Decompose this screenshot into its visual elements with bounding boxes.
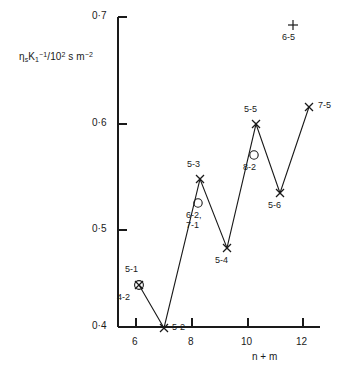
- data-polyline: [139, 107, 309, 328]
- chart-figure: ηsK1−1/102 s m−2 0·7 0·6 0·5 0·4 6 8 10 …: [0, 0, 349, 375]
- marker-6-5-plus: [288, 20, 298, 30]
- marker-7-5-cross: [305, 103, 313, 111]
- y-axis-title: ηsK1−1/102 s m−2: [19, 51, 93, 63]
- y-axis-title-div: /10: [47, 51, 61, 62]
- point-label-5-3: 5-3: [187, 160, 200, 169]
- x-tick-label-6: 6: [132, 337, 138, 348]
- point-label-6-5: 6-5: [282, 33, 295, 42]
- y-axis-title-units-sup: −2: [85, 51, 93, 58]
- marker-8-2-circle: [250, 151, 258, 159]
- axis-lines: [118, 17, 320, 327]
- point-label-5-5: 5-5: [244, 105, 257, 114]
- point-label-7-1: 7-1: [186, 221, 199, 230]
- marker-5-3-cross: [196, 175, 204, 183]
- y-tick-label-0.4: 0·4: [92, 321, 106, 332]
- point-label-8-2: 8-2: [243, 163, 256, 172]
- marker-5-6-cross: [276, 189, 284, 197]
- point-label-5-2: 5-2: [172, 323, 185, 332]
- y-axis-ticks: [118, 17, 127, 327]
- point-label-7-5: 7-5: [318, 101, 331, 110]
- x-tick-label-8: 8: [188, 337, 194, 348]
- y-tick-label-0.5: 0·5: [92, 224, 106, 235]
- x-tick-label-12: 12: [296, 337, 307, 348]
- x-axis-title: n + m: [252, 352, 277, 363]
- marker-5-4-cross: [223, 244, 231, 252]
- point-label-5-1: 5-1: [125, 265, 138, 274]
- y-axis-title-units: s m: [68, 51, 84, 62]
- marker-6-2-7-1-circle: [194, 199, 202, 207]
- marker-5-2-cross: [160, 324, 168, 332]
- cross-markers: [135, 103, 313, 332]
- plus-markers: [288, 20, 298, 30]
- y-tick-label-0.7: 0·7: [92, 11, 106, 22]
- point-label-4-2: 4-2: [117, 293, 130, 302]
- marker-5-5-cross: [252, 120, 260, 128]
- point-label-5-4: 5-4: [215, 256, 228, 265]
- point-label-5-6: 5-6: [268, 201, 281, 210]
- y-tick-label-0.6: 0·6: [92, 118, 106, 129]
- x-tick-label-10: 10: [241, 337, 252, 348]
